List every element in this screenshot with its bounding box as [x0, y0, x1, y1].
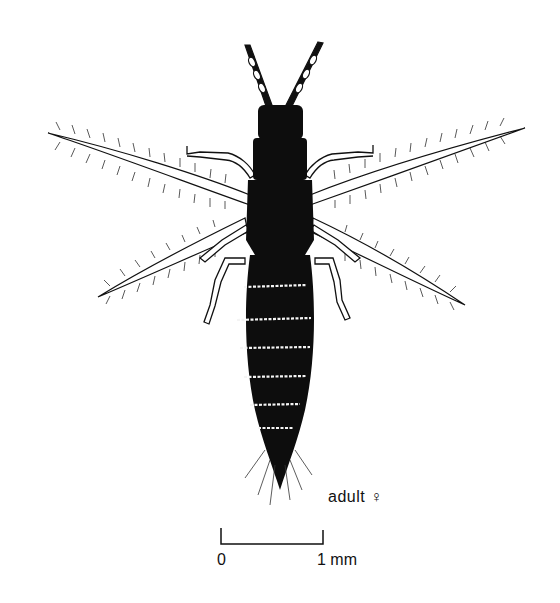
scale-end-label: 1 mm: [317, 551, 357, 569]
forewing-right: [310, 118, 525, 208]
abdomen: [246, 255, 314, 490]
body: [246, 105, 314, 490]
antenna-right: [286, 42, 323, 106]
caption-label: adult ♀: [328, 488, 383, 506]
head: [258, 105, 303, 140]
pterothorax: [246, 180, 314, 255]
antenna-left: [245, 45, 272, 106]
thrips-illustration: [0, 0, 560, 603]
scale-bar: [221, 528, 323, 544]
scale-start-label: 0: [217, 551, 226, 569]
prothorax: [253, 138, 307, 180]
forewing-left: [48, 122, 250, 209]
